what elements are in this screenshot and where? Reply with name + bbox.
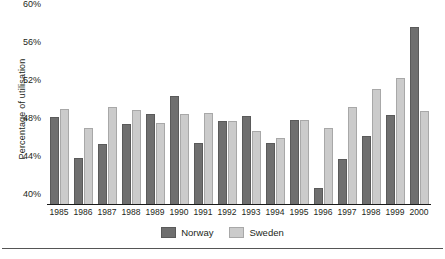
bar-norway-1996 — [314, 188, 323, 204]
bar-norway-1999 — [386, 115, 395, 204]
y-tick-label: 44% — [23, 151, 41, 161]
bar-norway-2000 — [410, 27, 419, 204]
bar-norway-1985 — [50, 117, 59, 204]
bar-norway-1995 — [290, 120, 299, 204]
bar-sweden-1987 — [108, 107, 117, 204]
chart-legend: NorwaySweden — [0, 227, 445, 238]
y-tick-label: 56% — [23, 37, 41, 47]
plot-area: 40%44%48%52%56%60% 198519861987198819891… — [47, 14, 431, 205]
bar-group: 1985 — [47, 14, 71, 204]
y-tick-label: 60% — [23, 0, 41, 9]
bar-norway-1988 — [122, 124, 131, 204]
x-axis-line — [47, 204, 431, 205]
x-tick-label: 1988 — [122, 207, 141, 217]
bar-group: 1997 — [335, 14, 359, 204]
bar-sweden-1996 — [324, 128, 333, 204]
legend-swatch-norway — [161, 227, 176, 238]
bar-sweden-1992 — [228, 121, 237, 204]
bar-norway-1986 — [74, 158, 83, 204]
bar-sweden-1999 — [396, 78, 405, 204]
bar-group: 1986 — [71, 14, 95, 204]
x-tick-label: 1996 — [314, 207, 333, 217]
bar-group: 1998 — [359, 14, 383, 204]
bar-norway-1992 — [218, 121, 227, 204]
bar-norway-1991 — [194, 143, 203, 204]
bar-group: 1995 — [287, 14, 311, 204]
bar-sweden-1990 — [180, 114, 189, 204]
bar-sweden-1995 — [300, 120, 309, 204]
y-axis-title: Percentage of utilisation — [17, 24, 27, 194]
y-tick-label: 40% — [23, 189, 41, 199]
bar-group: 1989 — [143, 14, 167, 204]
legend-label-sweden: Sweden — [249, 227, 283, 238]
x-tick-label: 1991 — [194, 207, 213, 217]
bar-sweden-1991 — [204, 113, 213, 204]
bar-group: 1992 — [215, 14, 239, 204]
bar-norway-1994 — [266, 143, 275, 204]
bottom-divider — [2, 248, 443, 249]
bar-sweden-1997 — [348, 107, 357, 204]
legend-label-norway: Norway — [181, 227, 213, 238]
bar-sweden-1988 — [132, 110, 141, 204]
x-tick-label: 2000 — [410, 207, 429, 217]
utilisation-bar-chart: Percentage of utilisation 40%44%48%52%56… — [0, 0, 445, 259]
bar-norway-1987 — [98, 144, 107, 204]
bar-group: 1988 — [119, 14, 143, 204]
x-tick-label: 1999 — [386, 207, 405, 217]
bar-norway-1997 — [338, 159, 347, 204]
bar-sweden-1998 — [372, 89, 381, 204]
x-tick-label: 1997 — [338, 207, 357, 217]
bar-sweden-1993 — [252, 131, 261, 204]
x-tick-label: 1993 — [242, 207, 261, 217]
x-tick-label: 1992 — [218, 207, 237, 217]
bar-norway-1989 — [146, 114, 155, 204]
bar-sweden-2000 — [420, 111, 429, 204]
y-tick-label: 52% — [23, 75, 41, 85]
bar-group: 1999 — [383, 14, 407, 204]
bar-group: 1987 — [95, 14, 119, 204]
x-tick-label: 1986 — [74, 207, 93, 217]
bar-group: 1994 — [263, 14, 287, 204]
bar-sweden-1989 — [156, 123, 165, 204]
bar-groups: 1985198619871988198919901991199219931994… — [47, 14, 431, 204]
bar-norway-1990 — [170, 96, 179, 204]
bar-group: 2000 — [407, 14, 431, 204]
x-tick-label: 1998 — [362, 207, 381, 217]
x-tick-label: 1987 — [98, 207, 117, 217]
bar-group: 1996 — [311, 14, 335, 204]
bar-norway-1993 — [242, 116, 251, 204]
bar-sweden-1985 — [60, 109, 69, 204]
bar-group: 1993 — [239, 14, 263, 204]
legend-swatch-sweden — [229, 227, 244, 238]
y-tick-label: 48% — [23, 113, 41, 123]
legend-item-sweden[interactable]: Sweden — [229, 227, 283, 238]
bar-group: 1990 — [167, 14, 191, 204]
x-tick-label: 1989 — [146, 207, 165, 217]
bar-group: 1991 — [191, 14, 215, 204]
x-tick-label: 1985 — [50, 207, 69, 217]
bar-norway-1998 — [362, 136, 371, 204]
x-tick-label: 1995 — [290, 207, 309, 217]
bar-sweden-1994 — [276, 138, 285, 205]
x-tick-label: 1994 — [266, 207, 285, 217]
legend-item-norway[interactable]: Norway — [161, 227, 213, 238]
x-tick-label: 1990 — [170, 207, 189, 217]
bar-sweden-1986 — [84, 128, 93, 204]
